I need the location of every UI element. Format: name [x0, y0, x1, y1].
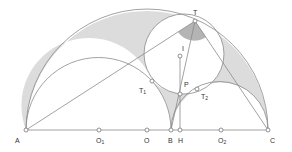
label-P: P: [184, 81, 189, 88]
label-I: I: [182, 45, 184, 52]
point-T: [193, 19, 197, 23]
label-T2: T2: [201, 93, 208, 101]
label-O2: O2: [218, 137, 226, 145]
point-O1: [97, 128, 101, 132]
point-O2: [219, 128, 223, 132]
label-T: T: [193, 9, 197, 16]
geometry-diagram: A O1 O B H O2 C T I P T1 T2: [0, 0, 292, 152]
label-H: H: [178, 137, 183, 144]
label-O1: O1: [96, 137, 104, 145]
label-O: O: [144, 137, 149, 144]
point-T2: [195, 87, 199, 91]
point-P: [178, 92, 182, 96]
diagram-svg: [0, 0, 292, 152]
point-I: [178, 54, 182, 58]
point-H: [178, 128, 182, 132]
label-T1: T1: [139, 87, 146, 95]
label-B: B: [168, 137, 173, 144]
label-C: C: [270, 137, 275, 144]
point-O: [145, 128, 149, 132]
label-A: A: [15, 137, 20, 144]
point-A: [24, 128, 28, 132]
point-C: [266, 128, 270, 132]
point-T1: [150, 79, 154, 83]
point-B: [169, 128, 173, 132]
